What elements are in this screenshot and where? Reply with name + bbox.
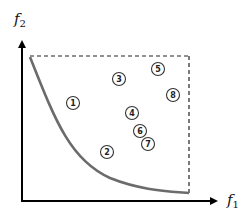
solution-point-1: 1 bbox=[67, 97, 80, 110]
svg-text:6: 6 bbox=[137, 127, 143, 136]
svg-text:5: 5 bbox=[155, 65, 161, 74]
svg-text:1: 1 bbox=[70, 99, 76, 108]
solution-point-4: 4 bbox=[126, 107, 139, 120]
y-axis-label: f2 bbox=[13, 10, 26, 29]
svg-text:7: 7 bbox=[145, 140, 151, 149]
pareto-front-curve bbox=[30, 57, 189, 193]
svg-text:3: 3 bbox=[116, 75, 122, 84]
x-axis-label: f1 bbox=[226, 191, 239, 210]
svg-text:2: 2 bbox=[104, 148, 110, 157]
solution-point-6: 6 bbox=[134, 125, 147, 138]
svg-text:4: 4 bbox=[129, 109, 135, 118]
pareto-diagram: f2 f1 1 2 3 4 5 6 7 8 bbox=[0, 0, 249, 218]
solution-point-7: 7 bbox=[142, 138, 155, 151]
solution-point-8: 8 bbox=[167, 89, 180, 102]
solution-point-5: 5 bbox=[152, 63, 165, 76]
solution-point-2: 2 bbox=[101, 146, 114, 159]
solution-point-3: 3 bbox=[113, 73, 126, 86]
svg-text:8: 8 bbox=[170, 91, 176, 100]
dashed-bounding-box bbox=[30, 56, 189, 193]
